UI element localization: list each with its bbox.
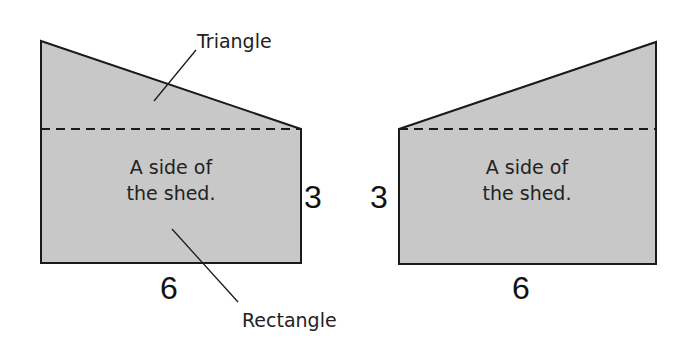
right-shed-shape bbox=[399, 42, 656, 264]
left-height-label: 3 bbox=[304, 179, 322, 215]
left-shed-side: Triangle A side of the shed. 3 6 Rectang… bbox=[41, 30, 337, 331]
left-caption-line1: A side of bbox=[130, 156, 214, 178]
right-caption-line1: A side of bbox=[486, 156, 570, 178]
left-width-label: 6 bbox=[160, 270, 178, 306]
right-caption-line2: the shed. bbox=[483, 182, 572, 204]
right-shed-side: A side of the shed. 3 6 bbox=[370, 42, 656, 306]
shed-diagram: Triangle A side of the shed. 3 6 Rectang… bbox=[0, 0, 683, 346]
rectangle-callout-label: Rectangle bbox=[242, 309, 337, 331]
triangle-callout-label: Triangle bbox=[196, 30, 272, 52]
left-caption-line2: the shed. bbox=[127, 182, 216, 204]
right-height-label: 3 bbox=[370, 179, 388, 215]
right-width-label: 6 bbox=[512, 270, 530, 306]
left-shed-shape bbox=[41, 41, 301, 263]
